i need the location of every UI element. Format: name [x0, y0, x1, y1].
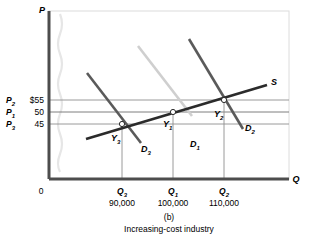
curve-label-s: S [271, 77, 277, 87]
quantity-label-q3: Q3 [117, 186, 128, 198]
caption-label: (b) [164, 212, 175, 222]
equilibrium-point-y1 [170, 109, 175, 114]
price-label-p3: P3 [6, 119, 16, 131]
equilibrium-point-y3 [119, 121, 124, 126]
price-value-p1: 50 [35, 107, 45, 117]
price-label-p2: P2 [6, 95, 16, 107]
plot-frame [49, 11, 289, 179]
price-label-p1: P1 [6, 107, 16, 119]
figure-container: P Q 0 P2 $55 P1 50 P3 45 Q3 Q1 Q2 90,000… [0, 0, 312, 238]
quantity-value-q2: 110,000 [209, 198, 239, 208]
price-value-p3: 45 [35, 119, 45, 129]
caption-text: Increasing-cost industry [124, 224, 215, 234]
x-axis-label: Q [292, 174, 299, 184]
y-axis-label: P [39, 5, 46, 15]
origin-label: 0 [39, 186, 44, 196]
equilibrium-point-y2 [221, 97, 226, 102]
quantity-label-q1: Q1 [168, 186, 179, 198]
quantity-value-q3: 90,000 [109, 198, 135, 208]
quantity-label-q2: Q2 [219, 186, 230, 198]
price-value-p2: $55 [30, 95, 44, 105]
quantity-value-q1: 100,000 [158, 198, 189, 208]
supply-demand-chart: P Q 0 P2 $55 P1 50 P3 45 Q3 Q1 Q2 90,000… [0, 0, 312, 238]
